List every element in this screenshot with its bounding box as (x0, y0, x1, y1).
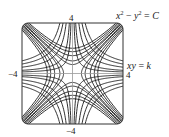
tick-label-top: 4 (69, 14, 74, 23)
eq-k: k (147, 60, 151, 71)
eq-equals: = (136, 60, 147, 71)
tick-label-left: −4 (8, 70, 18, 79)
eq-c: C (152, 10, 159, 21)
hyperbola-curve (73, 76, 148, 137)
hyperbola-curve (0, 76, 72, 137)
hyperbola-curve (0, 99, 169, 137)
tick-label-bottom: −4 (66, 127, 76, 136)
eq-equals: = (142, 10, 153, 21)
equation-label-c: x2 − y2 = C (116, 10, 159, 21)
hyperbola-curve (73, 75, 148, 137)
tick-label-right: 4 (126, 71, 131, 80)
eq-minus: − (123, 10, 134, 21)
hyperbola-curve (0, 86, 169, 137)
